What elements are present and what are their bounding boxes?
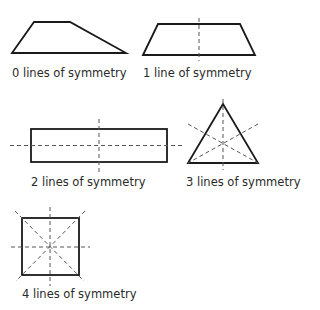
figure-irregular-quadrilateral: 0 lines of symmetry (12, 22, 127, 80)
figure-isosceles-trapezoid: 1 line of symmetry (143, 18, 255, 80)
triangle-outline (188, 104, 258, 163)
label-3-lines: 3 lines of symmetry (186, 175, 301, 189)
label-1-line: 1 line of symmetry (143, 66, 252, 80)
label-2-lines: 2 lines of symmetry (31, 175, 146, 189)
symmetry-diagram: 0 lines of symmetry 1 line of symmetry 2… (0, 0, 320, 310)
irregular-quadrilateral-outline (12, 22, 126, 53)
label-4-lines: 4 lines of symmetry (22, 287, 137, 301)
figure-rectangle: 2 lines of symmetry (10, 119, 185, 189)
figure-square: 4 lines of symmetry (11, 207, 137, 301)
figure-equilateral-triangle: 3 lines of symmetry (186, 99, 301, 189)
label-0-lines: 0 lines of symmetry (12, 66, 127, 80)
